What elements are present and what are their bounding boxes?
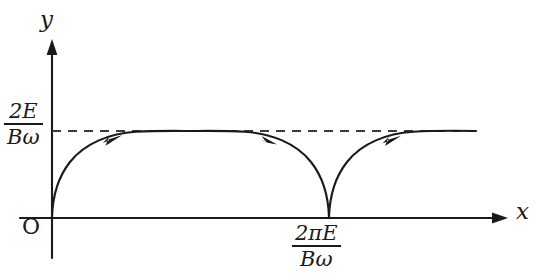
- y-level-numerator: 2E: [6, 100, 41, 123]
- y-axis-arrow-icon: [47, 39, 58, 55]
- x-period-numerator: 2πE: [292, 222, 341, 245]
- cycloid-arch-1: [52, 131, 329, 218]
- cycloid-figure: y x O 2E Bω 2πE Bω: [0, 0, 543, 278]
- x-period-fraction-label: 2πE Bω: [292, 222, 341, 270]
- x-axis-arrow-icon: [492, 213, 508, 224]
- x-axis-label: x: [516, 200, 529, 223]
- cycloid-arch-2: [329, 131, 476, 218]
- figure-canvas: [0, 0, 543, 278]
- y-level-denominator: Bω: [4, 125, 43, 148]
- y-axis-label: y: [40, 8, 53, 31]
- y-level-fraction-label: 2E Bω: [4, 100, 43, 148]
- x-period-denominator: Bω: [297, 247, 336, 270]
- origin-label: O: [22, 216, 40, 238]
